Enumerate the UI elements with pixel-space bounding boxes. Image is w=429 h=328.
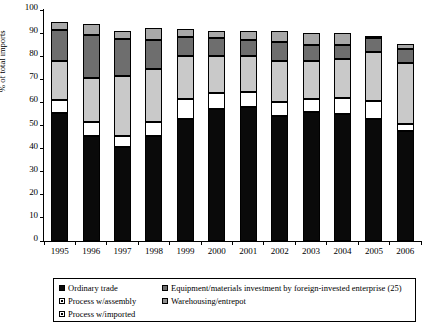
bar-segment-imported <box>177 56 194 99</box>
bar-segment-warehousing <box>145 28 162 40</box>
bar-segment-assembly <box>83 122 100 136</box>
y-tick-label: 70 <box>29 72 38 81</box>
bar-segment-warehousing <box>365 36 382 38</box>
bar-segment-warehousing <box>240 31 257 40</box>
legend-label: Process w/imported <box>68 309 135 319</box>
bar-group <box>303 10 320 241</box>
bar-group <box>51 10 68 241</box>
chart-legend: Ordinary tradeEquipment/materials invest… <box>53 278 416 322</box>
bar-segment-equipment <box>145 40 162 69</box>
bar-group <box>397 10 414 241</box>
bar-segment-assembly <box>208 93 225 109</box>
x-tick-label: 1995 <box>51 246 69 256</box>
bar-segment-ordinary <box>208 109 225 241</box>
x-tick-mark <box>201 241 202 245</box>
bar-segment-assembly <box>114 136 131 147</box>
y-tick-label: 0 <box>34 234 38 243</box>
x-tick-mark <box>326 241 327 245</box>
bar-segment-imported <box>240 56 257 92</box>
x-tick-mark <box>106 241 107 245</box>
bar-segment-warehousing <box>271 31 288 43</box>
legend-item[interactable]: Ordinary trade <box>59 283 118 293</box>
bar-segment-equipment <box>51 30 68 61</box>
bar-segment-equipment <box>303 45 320 61</box>
x-tick-mark <box>44 241 45 245</box>
x-tick-label: 1996 <box>82 246 100 256</box>
bar-segment-warehousing <box>51 22 68 30</box>
bar-segment-ordinary <box>51 113 68 241</box>
bar-segment-ordinary <box>240 107 257 241</box>
bar-segment-equipment <box>208 38 225 56</box>
bar-segment-equipment <box>83 35 100 78</box>
x-tick-label: 2000 <box>208 246 226 256</box>
stacked-bar-chart: % of total imports 010203040506070809010… <box>0 0 429 328</box>
y-tick-label: 80 <box>29 49 38 58</box>
bar-segment-ordinary <box>271 116 288 241</box>
bar-segment-warehousing <box>334 33 351 45</box>
legend-item[interactable]: Process w/assembly <box>59 296 136 306</box>
bar-segment-imported <box>334 59 351 98</box>
x-tick-label: 2003 <box>302 246 320 256</box>
bar-segment-assembly <box>145 122 162 136</box>
x-tick-mark <box>232 241 233 245</box>
y-tick-label: 40 <box>29 142 38 151</box>
x-tick-label: 2004 <box>333 246 351 256</box>
legend-label: Warehousing/entrepot <box>171 296 246 306</box>
bar-segment-imported <box>365 52 382 102</box>
assembly-swatch-icon <box>59 298 65 304</box>
bar-segment-ordinary <box>83 136 100 241</box>
x-tick-label: 1997 <box>114 246 132 256</box>
bar-segment-assembly <box>334 98 351 114</box>
bar-segment-assembly <box>397 124 414 131</box>
bar-segment-ordinary <box>334 114 351 241</box>
x-tick-label: 2002 <box>271 246 289 256</box>
bar-segment-ordinary <box>303 112 320 241</box>
bar-group <box>145 10 162 241</box>
y-tick-label: 30 <box>29 165 38 174</box>
bar-segment-imported <box>51 61 68 100</box>
bar-group <box>114 10 131 241</box>
bar-segment-equipment <box>271 42 288 60</box>
legend-item[interactable]: Equipment/materials investment by foreig… <box>162 283 402 293</box>
plot-area <box>44 10 421 241</box>
bar-segment-equipment <box>114 39 131 76</box>
y-tick-label: 10 <box>29 211 38 220</box>
bar-segment-assembly <box>51 100 68 113</box>
bar-group <box>271 10 288 241</box>
bar-segment-imported <box>145 69 162 122</box>
legend-label: Process w/assembly <box>68 296 136 306</box>
bar-group <box>365 10 382 241</box>
bar-segment-equipment <box>365 38 382 52</box>
x-tick-mark <box>169 241 170 245</box>
bar-segment-assembly <box>271 102 288 116</box>
bar-segment-ordinary <box>145 136 162 241</box>
x-tick-mark <box>138 241 139 245</box>
legend-label: Equipment/materials investment by foreig… <box>171 283 402 293</box>
bar-segment-warehousing <box>114 31 131 39</box>
bar-segment-imported <box>83 78 100 121</box>
y-tick-label: 60 <box>29 95 38 104</box>
x-tick-mark <box>75 241 76 245</box>
bar-segment-ordinary <box>397 131 414 241</box>
bar-segment-warehousing <box>177 29 194 37</box>
x-tick-label: 2005 <box>365 246 383 256</box>
bar-segment-ordinary <box>114 147 131 241</box>
x-tick-label: 1999 <box>176 246 194 256</box>
bar-segment-ordinary <box>365 119 382 241</box>
bar-segment-equipment <box>240 40 257 56</box>
y-tick-label: 100 <box>25 3 38 12</box>
bar-segment-imported <box>397 63 414 124</box>
x-tick-label: 2001 <box>239 246 257 256</box>
y-tick-label: 90 <box>29 26 38 35</box>
legend-item[interactable]: Process w/imported <box>59 309 135 319</box>
bar-segment-assembly <box>177 99 194 119</box>
equipment-swatch-icon <box>162 285 168 291</box>
y-tick-label: 20 <box>29 188 38 197</box>
warehousing-swatch-icon <box>162 298 168 304</box>
bar-group <box>177 10 194 241</box>
legend-item[interactable]: Warehousing/entrepot <box>162 296 246 306</box>
imported-swatch-icon <box>59 311 65 317</box>
bar-segment-warehousing <box>208 31 225 38</box>
bar-segment-warehousing <box>397 44 414 50</box>
bar-segment-warehousing <box>303 33 320 45</box>
